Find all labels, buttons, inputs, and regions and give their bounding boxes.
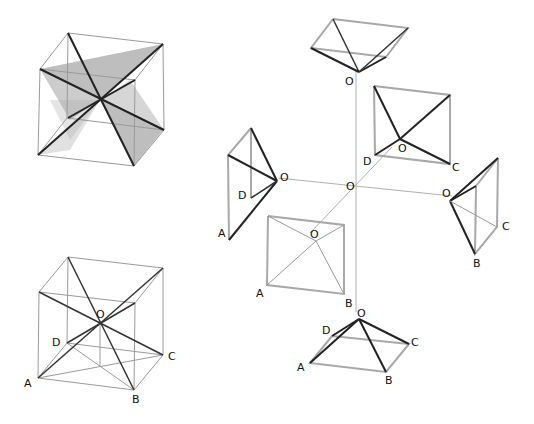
label-c: C: [168, 350, 176, 363]
pyramid-bottom: O D C A B: [297, 307, 419, 387]
pyramid-back: O D C: [363, 86, 460, 174]
front-label-o: O: [310, 228, 319, 241]
pyramid-top: O: [311, 19, 408, 88]
center-label-o: O: [346, 180, 355, 193]
shaded-cube: [38, 33, 164, 166]
bottom-label-d: D: [322, 324, 330, 337]
exploded-pyramids: O O O D C O: [218, 19, 510, 387]
pyramid-left: O D A: [218, 128, 289, 240]
bottom-label-b: B: [385, 374, 393, 387]
label-d: D: [52, 336, 60, 349]
pyramid-right: O C B: [442, 158, 510, 270]
top-label-o: O: [345, 75, 354, 88]
left-label-o: O: [280, 171, 289, 184]
back-label-d: D: [363, 155, 371, 168]
label-o: O: [96, 308, 105, 321]
diagram-canvas: O D A B C O O O D C: [0, 0, 534, 424]
right-label-b: B: [473, 257, 481, 270]
pyramid-front: O A B: [256, 216, 353, 310]
back-label-o: O: [398, 142, 407, 155]
front-label-b: B: [345, 297, 353, 310]
label-a: A: [24, 377, 32, 390]
bottom-label-c: C: [411, 336, 419, 349]
left-label-d: D: [238, 189, 246, 202]
front-label-a: A: [256, 287, 264, 300]
left-label-a: A: [218, 227, 226, 240]
back-label-c: C: [452, 161, 460, 174]
labeled-cube: O D A B C: [24, 257, 176, 406]
label-b: B: [132, 393, 140, 406]
right-label-c: C: [502, 220, 510, 233]
right-label-o: O: [442, 187, 451, 200]
bottom-label-a: A: [297, 361, 305, 374]
horizontal-axis: [278, 178, 452, 196]
bottom-label-o: O: [357, 307, 366, 320]
